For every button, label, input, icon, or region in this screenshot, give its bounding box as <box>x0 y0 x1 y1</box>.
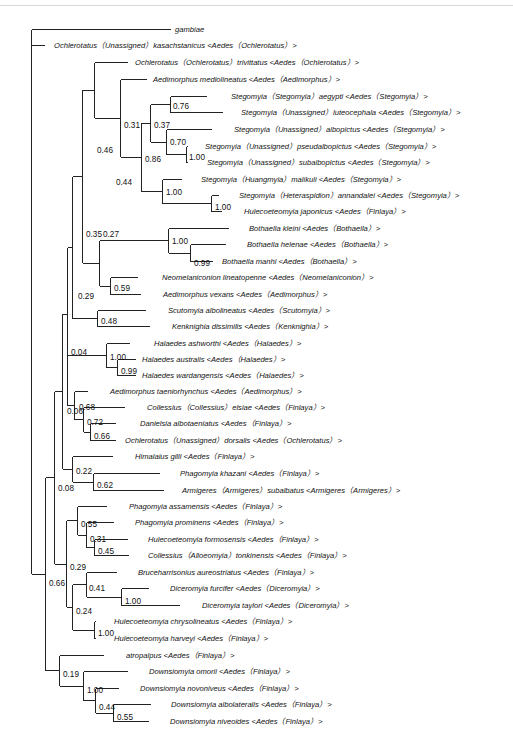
tip-label: Collessius（Alloeomyia）tonkinensis <Aedes… <box>148 551 347 560</box>
tip-label: Downsiomyia albolateralis <Aedes（Finlaya… <box>171 700 332 709</box>
support-value: 0.08 <box>58 484 74 493</box>
tip-label: Phagomyia khazani <Aedes（Finlaya）> <box>180 469 320 478</box>
support-value: 0.59 <box>114 284 130 293</box>
tip-label: Aedimorphus vexans <Aedes（Aedimorphus）> <box>162 290 328 299</box>
tip-label: Stegomyia（Unassigned）pseudalbopictus <Ae… <box>205 142 437 151</box>
tip-label: Stegomyia（Heteraspidion）annandalei <Aede… <box>239 191 460 200</box>
tip-label: Bothaella kleini <Aedes（Bothaella）> <box>249 224 381 233</box>
support-value: 0.19 <box>63 670 79 679</box>
tip-label: Bruceharrisonius aureostriatus <Aedes（Fi… <box>138 568 315 577</box>
support-value: 0.22 <box>76 467 92 476</box>
tip-label: Himalaius gilli <Aedes（Finlaya）> <box>135 452 255 461</box>
support-value: 0.44 <box>99 703 115 712</box>
support-value: 0.29 <box>70 563 86 572</box>
tip-label: Halaedes ashworthi <Aedes（Halaedes）> <box>154 339 302 348</box>
support-value: 0.04 <box>71 348 87 357</box>
tip-label: Hulecoeteomyia harveyi <Aedes（Finlaya）> <box>114 634 269 643</box>
tip-label: Downsiomyia niveoides <Aedes（Finlaya）> <box>170 717 323 726</box>
support-value: 1.00 <box>166 188 182 197</box>
support-value: 0.68 <box>79 403 95 412</box>
support-value: 0.72 <box>87 418 103 427</box>
tip-label: Halaedes wardangensis <Aedes（Halaedes）> <box>142 371 304 380</box>
support-value: 1.00 <box>189 153 205 162</box>
support-value: 0.86 <box>145 155 161 164</box>
support-value: 1.00 <box>98 629 114 638</box>
support-values: 0.760.310.370.460.701.000.860.441.001.00… <box>49 102 231 722</box>
tip-label: Armigeres（Armigeres）subalbatus <Armigere… <box>181 486 401 495</box>
support-value: 0.27 <box>103 230 119 239</box>
tip-label: Stegomyia（Huangmyia）malikuli <Aedes（Steg… <box>201 175 402 184</box>
tip-label: Ochlerotatus（Ochlerotatus）trivittatus <A… <box>135 58 360 67</box>
tip-label: Stegomyia（Unassigned）luteocephala <Aedes… <box>241 108 461 117</box>
tip-label: Stegomyia（Stegomyia）aegypti <Aedes（Stego… <box>231 92 428 101</box>
tip-label: Phagomyia assamensis <Aedes（Finlaya）> <box>129 502 283 511</box>
tip-label: Stegomyia（Unassigned）subalbopictus <Aede… <box>207 158 430 167</box>
support-value: 0.62 <box>97 481 113 490</box>
support-value: 0.70 <box>170 138 186 147</box>
tip-label: Scutomyia albolineatus <Aedes（Scutomyia）… <box>168 306 331 315</box>
tip-label: Stegomyia（Unassigned）albopictus <Aedes（S… <box>234 125 445 134</box>
tip-label: Phagomyia prominens <Aedes（Finlaya）> <box>135 518 284 527</box>
tip-label: Bothaella helenae <Aedes（Bothaella）> <box>247 240 389 249</box>
support-value: 0.99 <box>121 367 137 376</box>
tip-label: Kenknighia dissimilis <Aedes（Kenknighia）… <box>172 322 329 331</box>
support-value: 0.76 <box>173 102 189 111</box>
tip-label: Bothaella manhi <Aedes（Bothaella）> <box>222 257 357 266</box>
support-value: 1.00 <box>110 353 126 362</box>
support-value: 0.24 <box>76 607 92 616</box>
support-value: 0.99 <box>194 259 210 268</box>
tip-label: Hulecoeteomyia japonicus <Aedes（Finlaya）… <box>244 207 406 216</box>
tip-label: Halaedes australis <Aedes（Halaedes）> <box>142 355 286 364</box>
tip-label: Aedimorphus taeniorhynchus <Aedes（Aedimo… <box>109 387 302 396</box>
support-value: 1.00 <box>125 597 141 606</box>
support-value: 0.45 <box>98 547 114 556</box>
support-value: 0.66 <box>49 579 65 588</box>
tip-label: Downsiomyia novoniveus <Aedes（Finlaya）> <box>140 684 299 693</box>
tip-label: gambiae <box>175 25 204 34</box>
support-value: 0.44 <box>116 178 132 187</box>
support-value: 0.37 <box>154 121 170 130</box>
tip-label: atropalpus <Aedes（Finlaya）> <box>126 651 235 660</box>
support-value: 0.29 <box>78 292 94 301</box>
tip-label: Collessius（Collessius）elsiae <Aedes（Finl… <box>147 403 326 412</box>
tip-label: Aedimorphus mediolineatus <Aedes（Aedimor… <box>152 75 341 84</box>
tip-label: Hulecoeteomyia formosensis <Aedes（Finlay… <box>148 535 319 544</box>
tip-label: Ochlerotatus（Unassigned）kasachstanicus <… <box>54 41 297 50</box>
tip-labels: gambiaeOchlerotatus（Unassigned）kasachsta… <box>54 25 461 726</box>
support-value: 1.00 <box>87 686 103 695</box>
tip-label: Diceromyia taylori <Aedes（Diceromyia）> <box>202 601 349 610</box>
tip-label: Ochlerotatus（Unassigned）dorsalis <Aedes（… <box>125 436 342 445</box>
support-value: 0.46 <box>97 146 113 155</box>
tip-label: Diceromyia furcifer <Aedes（Diceromyia）> <box>170 584 320 593</box>
tip-label: Hulecoeteomyia chrysolineatus <Aedes（Fin… <box>114 617 293 626</box>
support-value: 0.41 <box>89 584 105 593</box>
support-value: 0.31 <box>90 535 106 544</box>
tip-label: Downsiomyia omorii <Aedes（Finlaya）> <box>149 667 290 676</box>
support-value: 0.31 <box>124 121 140 130</box>
tip-label: Neomelaniconion lineatopenne <Aedes（Neom… <box>162 273 374 282</box>
support-value: 1.00 <box>215 203 231 212</box>
support-value: 0.55 <box>117 713 133 722</box>
support-value: 0.48 <box>101 317 117 326</box>
tip-label: Danielsia albotaeniatus <Aedes（Finlaya）> <box>140 419 292 428</box>
support-value: 0.35 <box>86 230 102 239</box>
phylogenetic-tree: gambiaeOchlerotatus（Unassigned）kasachsta… <box>0 0 513 753</box>
support-value: 0.55 <box>81 520 97 529</box>
support-value: 1.00 <box>172 237 188 246</box>
support-value: 0.66 <box>94 432 110 441</box>
